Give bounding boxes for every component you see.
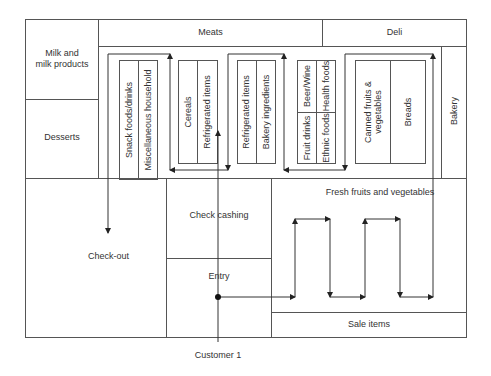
customer-path (0, 0, 491, 376)
